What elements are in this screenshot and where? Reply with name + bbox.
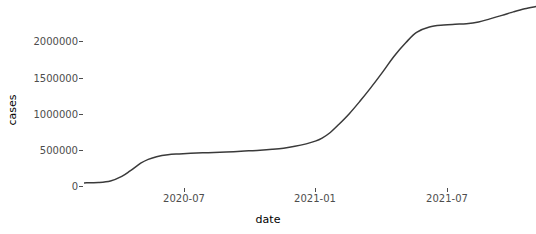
y-tick-mark-1000000 xyxy=(79,114,83,115)
y-tick-mark-500000 xyxy=(79,150,83,151)
x-tick-mark-2020-07 xyxy=(184,188,185,192)
line-chart: cases 0 500000 1000000 1500000 2000000 2… xyxy=(0,0,536,234)
x-tick-mark-2021-01 xyxy=(315,188,316,192)
cases-line-series xyxy=(84,3,536,188)
y-tick-label-2000000: 2000000 xyxy=(33,36,78,47)
x-tick-label-2020-07: 2020-07 xyxy=(163,193,205,204)
x-tick-label-2021-01: 2021-01 xyxy=(294,193,336,204)
x-axis-title-label: date xyxy=(256,213,281,226)
y-tick-mark-2000000 xyxy=(79,41,83,42)
y-tick-mark-1500000 xyxy=(79,78,83,79)
x-tick-mark-2021-07 xyxy=(447,188,448,192)
y-tick-label-500000: 500000 xyxy=(40,145,78,156)
y-axis-tick-labels: 0 500000 1000000 1500000 2000000 xyxy=(16,0,78,234)
plot-panel xyxy=(84,3,536,188)
x-tick-label-2021-07: 2021-07 xyxy=(426,193,468,204)
x-axis-title: date xyxy=(0,213,536,226)
y-tick-label-0: 0 xyxy=(72,181,78,192)
y-tick-label-1000000: 1000000 xyxy=(33,109,78,120)
y-tick-mark-0 xyxy=(79,186,83,187)
cases-line-path xyxy=(84,6,536,182)
y-tick-label-1500000: 1500000 xyxy=(33,73,78,84)
